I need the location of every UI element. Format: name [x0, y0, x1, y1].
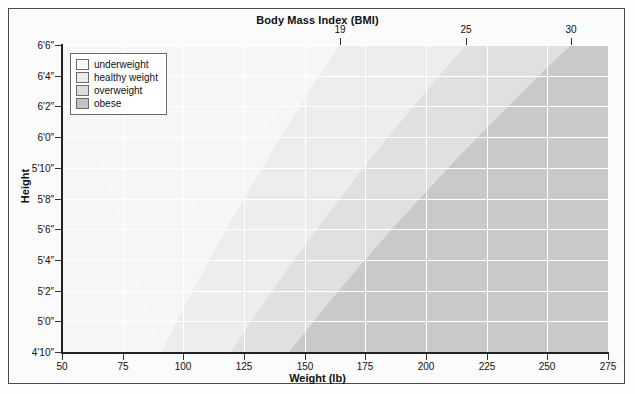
gridline-vertical: [547, 45, 548, 352]
bmi-axis-tick-label: 19: [320, 24, 360, 35]
y-axis-tick-label: 5'10″: [2, 163, 54, 174]
y-axis-tick-label: 6'6″: [2, 40, 54, 51]
y-axis-tick: [55, 199, 62, 200]
x-axis-line: [61, 352, 609, 354]
legend-item: underweight: [76, 58, 158, 71]
gridline-horizontal: [62, 199, 608, 200]
y-axis-tick-label: 6'2″: [2, 101, 54, 112]
x-axis-tick-label: 200: [404, 361, 448, 372]
x-axis-tick-label: 75: [101, 361, 145, 372]
x-axis-tick: [487, 354, 488, 360]
gridline-horizontal: [62, 321, 608, 322]
gridline-horizontal: [62, 229, 608, 230]
x-axis-tick: [244, 354, 245, 360]
legend-swatch-icon: [76, 72, 89, 83]
x-axis-tick-label: 50: [40, 361, 84, 372]
y-axis-tick-label: 5'6″: [2, 224, 54, 235]
gridline-vertical: [487, 45, 488, 352]
legend-item-label: healthy weight: [94, 72, 158, 83]
legend-item-label: overweight: [94, 85, 142, 96]
gridline-vertical: [244, 45, 245, 352]
x-axis-tick-label: 275: [586, 361, 630, 372]
legend-item: healthy weight: [76, 71, 158, 84]
legend-item: obese: [76, 97, 158, 110]
gridline-vertical: [365, 45, 366, 352]
gridline-vertical: [426, 45, 427, 352]
bmi-axis-tick: [340, 38, 341, 45]
x-axis-tick: [426, 354, 427, 360]
gridline-horizontal: [62, 291, 608, 292]
x-axis-tick: [62, 354, 63, 360]
x-axis-tick: [183, 354, 184, 360]
y-axis-tick-label: 5'8″: [2, 194, 54, 205]
bmi-axis-tick-label: 25: [446, 24, 486, 35]
legend-swatch-icon: [76, 98, 89, 109]
x-axis-tick-label: 175: [343, 361, 387, 372]
bmi-axis-tick: [466, 38, 467, 45]
gridline-horizontal: [62, 260, 608, 261]
x-axis-tick: [365, 354, 366, 360]
y-axis-tick-label: 5'2″: [2, 286, 54, 297]
bmi-axis-tick: [571, 38, 572, 45]
gridline-horizontal: [62, 168, 608, 169]
y-axis-tick: [55, 106, 62, 107]
gridline-vertical: [183, 45, 184, 352]
legend-item-label: underweight: [94, 59, 148, 70]
y-axis-tick: [55, 229, 62, 230]
legend-item: overweight: [76, 84, 158, 97]
y-axis-tick-label: 6'4″: [2, 71, 54, 82]
x-axis-tick-label: 250: [525, 361, 569, 372]
legend-item-label: obese: [94, 98, 121, 109]
y-axis-tick-label: 6'0″: [2, 132, 54, 143]
bmi-chart-page: Body Mass Index (BMI) Weight (lb) Height…: [0, 0, 635, 394]
gridline-horizontal: [62, 137, 608, 138]
y-axis-tick: [55, 45, 62, 46]
bmi-axis-tick-label: 30: [551, 24, 591, 35]
legend-swatch-icon: [76, 85, 89, 96]
x-axis-tick-label: 150: [283, 361, 327, 372]
y-axis-tick: [55, 260, 62, 261]
y-axis-tick: [55, 137, 62, 138]
gridline-vertical: [305, 45, 306, 352]
x-axis-tick-label: 225: [465, 361, 509, 372]
gridline-horizontal: [62, 45, 608, 46]
y-axis-tick: [55, 168, 62, 169]
y-axis-tick: [55, 76, 62, 77]
y-axis-tick-label: 5'4″: [2, 255, 54, 266]
x-axis-tick: [123, 354, 124, 360]
y-axis-tick-label: 4'10″: [2, 347, 54, 358]
x-axis-tick: [547, 354, 548, 360]
x-axis-tick-label: 125: [222, 361, 266, 372]
y-axis-tick-label: 5'0″: [2, 316, 54, 327]
legend: underweighthealthy weightoverweightobese: [70, 53, 167, 115]
y-axis-tick: [55, 352, 62, 353]
y-axis-tick: [55, 291, 62, 292]
x-axis-title: Weight (lb): [0, 372, 635, 384]
x-axis-tick: [608, 354, 609, 360]
x-axis-tick-label: 100: [161, 361, 205, 372]
chart-top-title: Body Mass Index (BMI): [0, 14, 635, 26]
legend-swatch-icon: [76, 59, 89, 70]
y-axis-tick: [55, 321, 62, 322]
x-axis-tick: [305, 354, 306, 360]
